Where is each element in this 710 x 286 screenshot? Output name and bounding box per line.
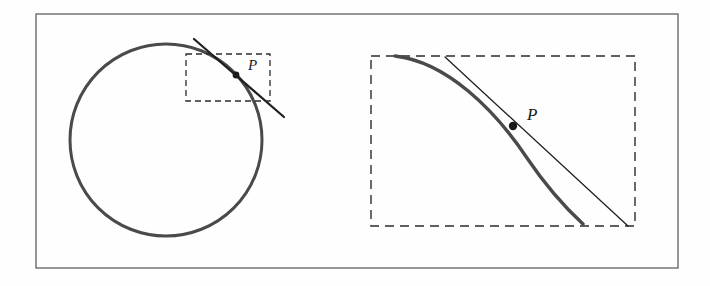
figure-container: P P bbox=[0, 0, 710, 286]
right-panel-group: P bbox=[371, 56, 635, 226]
magnified-tangent-line bbox=[445, 57, 628, 226]
left-panel-group: P bbox=[70, 39, 284, 236]
tangent-line bbox=[194, 39, 284, 117]
point-label-p-right: P bbox=[526, 105, 537, 124]
tangency-point-marker bbox=[233, 72, 240, 79]
magnified-arc-shape bbox=[395, 56, 583, 224]
magnified-tangency-point-marker bbox=[509, 122, 517, 130]
magnified-region-frame bbox=[371, 56, 635, 226]
point-label-p-left: P bbox=[247, 57, 257, 73]
tangent-figure-svg: P P bbox=[0, 0, 710, 286]
